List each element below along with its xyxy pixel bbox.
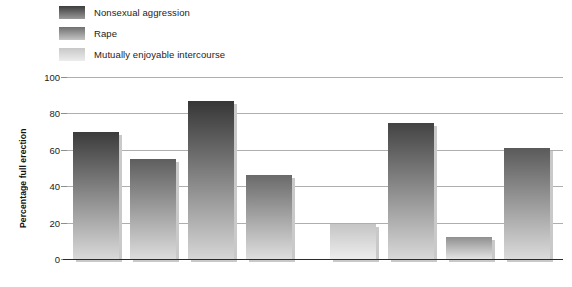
x-axis-baseline <box>63 259 563 260</box>
bar <box>130 159 176 259</box>
plot-area: Percentage full erection 020406080100 <box>0 0 572 287</box>
bar <box>73 132 119 259</box>
figure-bar-chart: Nonsexual aggression Rape Mutually enjoy… <box>0 0 572 287</box>
bar <box>188 101 234 259</box>
bar <box>246 175 292 259</box>
bar <box>388 123 434 260</box>
bar <box>504 148 550 259</box>
bars-layer <box>0 0 572 287</box>
bar <box>446 237 492 259</box>
bar <box>330 224 376 259</box>
